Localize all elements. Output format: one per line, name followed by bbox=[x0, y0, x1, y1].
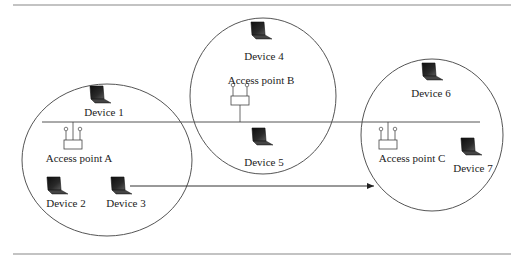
device-6-label: Device 6 bbox=[411, 87, 450, 99]
access-point-b-icon bbox=[231, 83, 249, 105]
network-diagram bbox=[0, 0, 525, 256]
device-6-laptop-icon bbox=[422, 63, 443, 80]
cell-c-boundary bbox=[361, 59, 503, 211]
access-point-a-label: Access point A bbox=[46, 152, 113, 164]
device-2-laptop-icon bbox=[47, 177, 68, 194]
device-5-laptop-icon bbox=[252, 128, 273, 145]
cell-b-boundary bbox=[190, 18, 336, 174]
device-4-laptop-icon bbox=[251, 22, 272, 39]
device-3-laptop-icon bbox=[111, 177, 132, 194]
device-1-laptop-icon bbox=[90, 86, 111, 103]
device-5-label: Device 5 bbox=[244, 156, 283, 168]
access-point-c-label: Access point C bbox=[379, 152, 446, 164]
device-1-label: Device 1 bbox=[84, 106, 123, 118]
device-2-label: Device 2 bbox=[46, 197, 85, 209]
device-3-label: Device 3 bbox=[106, 197, 145, 209]
device-4-label: Device 4 bbox=[244, 50, 283, 62]
access-point-b-label: Access point B bbox=[228, 74, 295, 86]
device-7-laptop-icon bbox=[461, 138, 482, 155]
device-7-label: Device 7 bbox=[453, 162, 492, 174]
